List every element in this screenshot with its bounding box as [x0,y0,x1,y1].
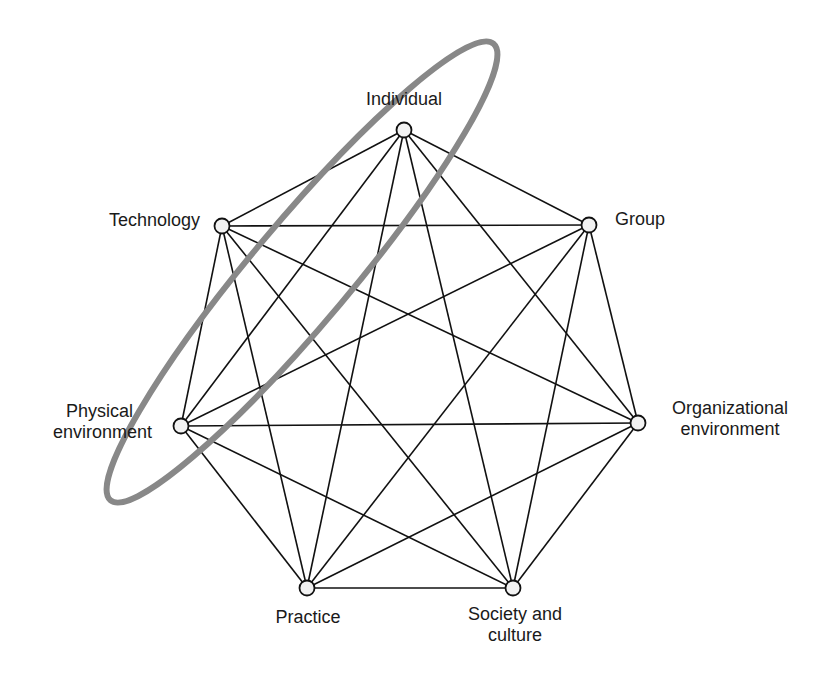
edge-organizational-society [513,423,638,588]
node-group [582,218,597,233]
node-individual [397,123,412,138]
label-physical-line1: Physical [20,401,152,422]
node-practice [300,581,315,596]
edge-individual-technology [222,130,404,226]
edge-group-society [513,225,589,588]
label-society-line1: Society and [455,604,575,625]
label-society-line2: culture [455,625,575,646]
edge-individual-group [404,130,589,225]
label-organizational-environment: Organizational environment [655,398,805,440]
label-practice: Practice [258,607,358,628]
edge-organizational-physical [181,423,638,426]
label-individual: Individual [354,89,454,110]
node-organizational [631,416,646,431]
label-technology-text: Technology [109,210,200,230]
edge-society-physical [181,426,513,588]
label-group-text: Group [615,209,665,229]
node-society [506,581,521,596]
node-physical [174,419,189,434]
label-individual-text: Individual [366,89,442,109]
highlight-ellipse [72,12,532,533]
node-technology [215,219,230,234]
nodes [174,123,646,596]
edge-group-practice [307,225,589,588]
edge-individual-physical [181,130,404,426]
edge-individual-practice [307,130,404,588]
label-organizational-line2: environment [655,419,805,440]
edge-organizational-technology [222,226,638,423]
label-practice-text: Practice [275,607,340,627]
label-technology: Technology [60,210,200,231]
label-group: Group [615,209,665,230]
edge-group-physical [181,225,589,426]
edge-organizational-practice [307,423,638,588]
label-physical-environment: Physical environment [20,401,152,443]
label-physical-line2: environment [20,422,152,443]
edges [181,130,638,588]
label-organizational-line1: Organizational [655,398,805,419]
label-society-and-culture: Society and culture [455,604,575,646]
edge-physical-technology [181,226,222,426]
